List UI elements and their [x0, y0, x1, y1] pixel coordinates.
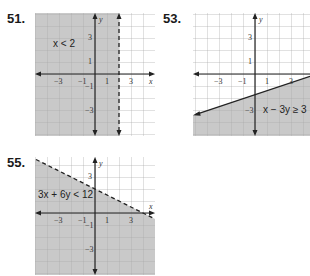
y-tick: −3 [245, 106, 254, 115]
y-axis-label: y [98, 15, 103, 24]
x-tick: 3 [129, 77, 133, 86]
y-tick: −3 [85, 245, 94, 254]
x-tick: −3 [54, 77, 63, 86]
x-axis-label: x [148, 77, 153, 86]
problem-number-55: 55. [7, 155, 25, 170]
x-tick: 1 [105, 77, 109, 86]
y-tick: −3 [85, 106, 94, 115]
x-tick: 1 [105, 216, 109, 225]
y-tick: −1 [85, 82, 94, 91]
inequality-label: x − 3y ≥ 3 [263, 104, 307, 115]
graph-55: y x −3 −1 1 3 3 −1 −3 3x + 6y < 12 [35, 157, 155, 275]
y-axis-label: y [98, 159, 103, 168]
y-axis-label: y [258, 15, 263, 24]
inequality-label: x < 2 [53, 38, 75, 49]
x-tick: 3 [289, 77, 293, 86]
y-tick: 3 [88, 172, 92, 181]
y-tick: 1 [248, 57, 252, 66]
x-axis-label: x [148, 202, 153, 211]
x-tick: −3 [54, 216, 63, 225]
inequality-label: 3x + 6y < 12 [38, 189, 93, 200]
problem-number-53: 53. [163, 11, 181, 26]
y-tick: 3 [88, 33, 92, 42]
x-tick: 3 [129, 216, 133, 225]
y-tick: −1 [85, 221, 94, 230]
y-tick: 1 [88, 57, 92, 66]
graph-53: y −3 −1 1 3 3 1 −3 x − 3y ≥ 3 [193, 13, 310, 136]
x-tick: −3 [214, 77, 223, 86]
x-tick: −1 [238, 77, 247, 86]
x-tick: 1 [265, 77, 269, 86]
graph-51: y x −3 −1 1 3 3 1 −1 −3 x < 2 [35, 13, 155, 136]
y-tick: 3 [248, 33, 252, 42]
problem-number-51: 51. [7, 11, 25, 26]
